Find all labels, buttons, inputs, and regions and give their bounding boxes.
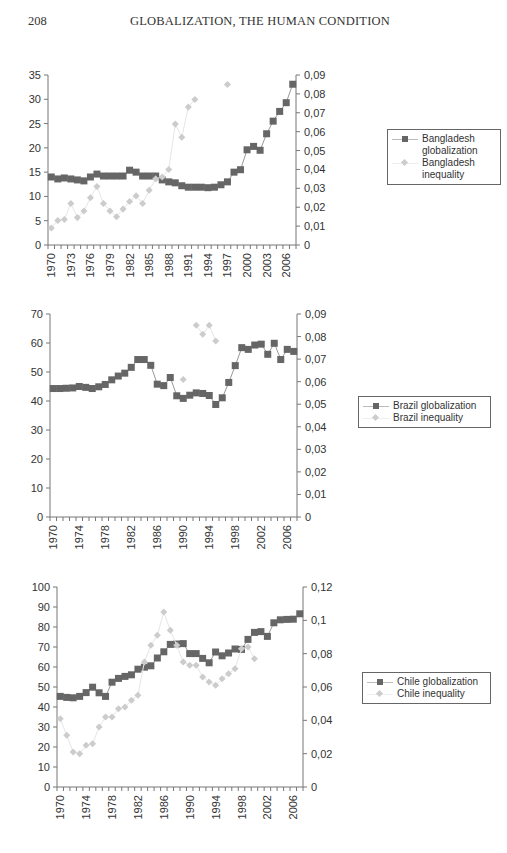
y-right-tick-label: 0 bbox=[311, 781, 317, 793]
legend-item-chile-inequality: Chile inequality bbox=[367, 688, 485, 700]
x-tick-label: 1990 bbox=[184, 795, 196, 819]
legend-item-bangladesh-inequality: Bangladeshinequality bbox=[392, 157, 495, 181]
x-tick-label: 1978 bbox=[106, 795, 118, 819]
x-tick-label: 2006 bbox=[287, 795, 299, 819]
data-point bbox=[147, 642, 154, 649]
data-point bbox=[134, 666, 141, 673]
data-point bbox=[160, 608, 167, 615]
x-tick-label: 1998 bbox=[236, 795, 248, 819]
data-point bbox=[128, 671, 135, 678]
data-point bbox=[109, 679, 116, 686]
series-chile-inequality bbox=[57, 608, 258, 757]
legend-bangladesh: Bangladeshglobalization Bangladeshinequa… bbox=[387, 129, 501, 185]
data-point bbox=[257, 628, 264, 635]
data-point bbox=[102, 693, 109, 700]
data-point bbox=[102, 713, 109, 720]
data-point bbox=[167, 641, 174, 648]
legend-brazil: Brazil globalization Brazil inequality bbox=[358, 396, 491, 428]
x-tick-label: 1986 bbox=[158, 795, 170, 819]
data-point bbox=[57, 693, 64, 700]
y-left-tick-label: 80 bbox=[38, 621, 50, 633]
data-point bbox=[70, 694, 77, 701]
data-point bbox=[264, 633, 271, 640]
data-point bbox=[180, 640, 187, 647]
y-right-tick-label: 0,04 bbox=[311, 714, 332, 726]
x-tick-label: 1974 bbox=[80, 795, 92, 819]
y-right-tick-label: 0,08 bbox=[311, 648, 332, 660]
plot-area: 010203040506070809010000,020,040,060,080… bbox=[32, 581, 333, 819]
y-left-tick-label: 70 bbox=[38, 641, 50, 653]
data-point bbox=[70, 748, 77, 755]
data-point bbox=[89, 740, 96, 747]
data-point bbox=[76, 693, 83, 700]
data-point bbox=[186, 662, 193, 669]
data-point bbox=[193, 662, 200, 669]
data-point bbox=[83, 689, 90, 696]
y-left-tick-label: 50 bbox=[38, 681, 50, 693]
data-point bbox=[251, 629, 258, 636]
y-left-tick-label: 0 bbox=[44, 781, 50, 793]
y-left-tick-label: 60 bbox=[38, 661, 50, 673]
data-point bbox=[160, 648, 167, 655]
data-point bbox=[290, 616, 297, 623]
data-point bbox=[121, 673, 128, 680]
y-right-tick-label: 0,1 bbox=[311, 614, 326, 626]
legend-item-brazil-inequality: Brazil inequality bbox=[363, 412, 485, 424]
data-point bbox=[63, 732, 70, 739]
y-left-tick-label: 20 bbox=[38, 741, 50, 753]
legend-item-bangladesh-globalization: Bangladeshglobalization bbox=[392, 133, 495, 157]
data-point bbox=[251, 655, 258, 662]
data-point bbox=[96, 689, 103, 696]
data-point bbox=[277, 616, 284, 623]
y-left-tick-label: 10 bbox=[38, 761, 50, 773]
data-point bbox=[115, 675, 122, 682]
x-tick-label: 1970 bbox=[54, 795, 66, 819]
data-point bbox=[154, 655, 161, 662]
data-point bbox=[180, 658, 187, 665]
y-left-tick-label: 40 bbox=[38, 701, 50, 713]
series-chile-globalization bbox=[57, 610, 304, 701]
y-right-tick-label: 0,06 bbox=[311, 681, 332, 693]
data-point bbox=[270, 619, 277, 626]
y-left-tick-label: 100 bbox=[32, 581, 50, 593]
data-point bbox=[206, 659, 213, 666]
legend-item-brazil-globalization: Brazil globalization bbox=[363, 400, 485, 412]
diamond-marker-icon bbox=[367, 688, 393, 700]
data-point bbox=[219, 652, 226, 659]
legend-chile: Chile globalization Chile inequality bbox=[362, 672, 491, 704]
y-left-tick-label: 30 bbox=[38, 721, 50, 733]
y-left-tick-label: 90 bbox=[38, 601, 50, 613]
diamond-marker-icon bbox=[392, 157, 418, 169]
data-point bbox=[225, 650, 232, 657]
square-marker-icon bbox=[367, 676, 393, 688]
data-point bbox=[296, 610, 303, 617]
data-point bbox=[89, 684, 96, 691]
diamond-marker-icon bbox=[363, 412, 389, 424]
data-point bbox=[232, 646, 239, 653]
y-right-tick-label: 0,12 bbox=[311, 581, 332, 593]
data-point bbox=[199, 655, 206, 662]
data-point bbox=[193, 650, 200, 657]
data-point bbox=[167, 627, 174, 634]
data-point bbox=[186, 650, 193, 657]
data-point bbox=[57, 715, 64, 722]
data-point bbox=[244, 636, 251, 643]
y-right-tick-label: 0,02 bbox=[311, 748, 332, 760]
data-point bbox=[96, 723, 103, 730]
data-point bbox=[283, 616, 290, 623]
data-point bbox=[244, 643, 251, 650]
data-point bbox=[212, 649, 219, 656]
data-point bbox=[154, 632, 161, 639]
x-tick-label: 1994 bbox=[210, 795, 222, 819]
square-marker-icon bbox=[392, 133, 418, 145]
data-point bbox=[147, 662, 154, 669]
x-tick-label: 1982 bbox=[132, 795, 144, 819]
legend-item-chile-globalization: Chile globalization bbox=[367, 676, 485, 688]
data-point bbox=[63, 694, 70, 701]
x-tick-label: 2002 bbox=[261, 795, 273, 819]
square-marker-icon bbox=[363, 400, 389, 412]
